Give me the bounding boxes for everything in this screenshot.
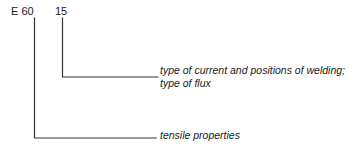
diagram-canvas: E 60 15 type of current and positions of…: [0, 0, 355, 158]
code-label-classification-digits: 15: [55, 5, 67, 17]
callout-line-1: tensile properties: [160, 129, 240, 142]
leader-line-electrode-strength: [35, 18, 157, 138]
callout-text-tensile-properties: tensile properties: [160, 129, 240, 142]
callout-line-2: type of flux: [160, 77, 345, 90]
callout-line-1: type of current and positions of welding…: [160, 64, 345, 77]
callout-text-current-and-flux: type of current and positions of welding…: [160, 64, 345, 89]
leader-line-classification-digits: [63, 18, 159, 77]
code-label-electrode-strength: E 60: [11, 5, 34, 17]
